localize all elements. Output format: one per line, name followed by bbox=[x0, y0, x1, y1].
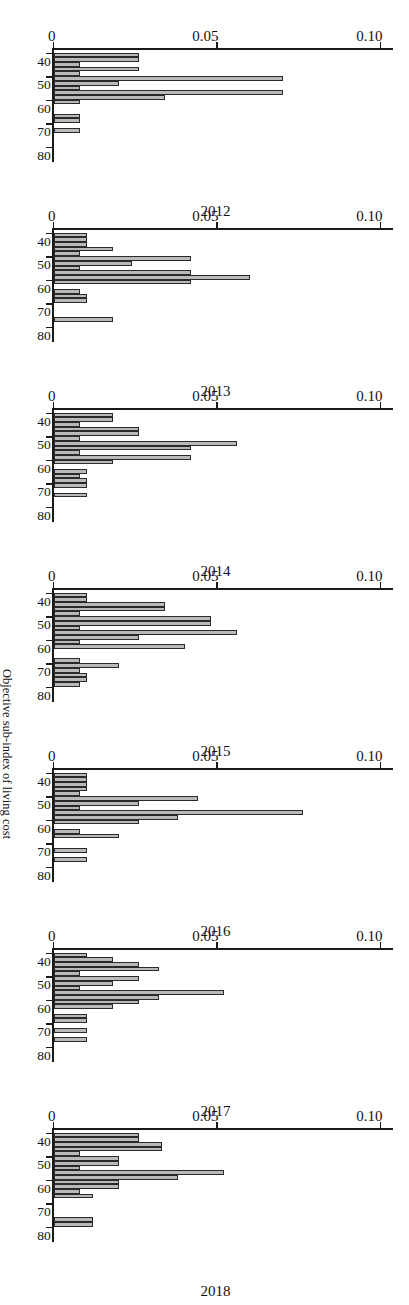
panel-2016: 00.050.1040506070802016 bbox=[0, 768, 409, 948]
density-tick-label: 0.05 bbox=[159, 208, 219, 225]
panel-2015: 00.050.1040506070802015 bbox=[0, 588, 409, 768]
value-tick-label: 80 bbox=[34, 508, 54, 524]
histogram-bar bbox=[54, 483, 87, 488]
value-tick-label: 60 bbox=[34, 641, 54, 657]
value-tick-label: 50 bbox=[34, 437, 54, 453]
value-tick-label: 50 bbox=[34, 977, 54, 993]
density-axis-line bbox=[54, 588, 393, 590]
histogram-bar bbox=[54, 280, 191, 285]
panel-grid: 00.050.104050607080201200.050.1040506070… bbox=[0, 0, 409, 1305]
value-tick-label: 40 bbox=[34, 774, 54, 790]
histogram-bar bbox=[54, 128, 80, 133]
histogram-bar bbox=[54, 644, 185, 649]
histogram-bar bbox=[54, 1222, 93, 1227]
histogram-bar bbox=[54, 100, 80, 105]
value-tick-label: 80 bbox=[34, 328, 54, 344]
density-tick-label: 0.10 bbox=[323, 28, 383, 45]
value-tick-label: 40 bbox=[34, 1134, 54, 1150]
histogram-bar bbox=[54, 1018, 87, 1023]
density-axis-line bbox=[54, 408, 393, 410]
histogram-bar bbox=[54, 1194, 93, 1199]
figure-root: Density Objective sub-index of living co… bbox=[0, 0, 409, 1305]
histogram-bar bbox=[54, 820, 139, 825]
value-tick-label: 80 bbox=[34, 1228, 54, 1244]
histogram-bar bbox=[54, 1037, 87, 1042]
value-tick-label: 70 bbox=[34, 304, 54, 320]
value-tick-label: 50 bbox=[34, 617, 54, 633]
density-tick-label: 0 bbox=[0, 28, 56, 45]
histogram-bar bbox=[54, 317, 113, 322]
density-tick-label: 0.05 bbox=[159, 28, 219, 45]
density-tick-label: 0 bbox=[0, 208, 56, 225]
value-tick-label: 40 bbox=[34, 594, 54, 610]
density-tick-label: 0.10 bbox=[323, 388, 383, 405]
value-tick-label: 70 bbox=[34, 664, 54, 680]
value-tick-label: 80 bbox=[34, 868, 54, 884]
value-tick-label: 80 bbox=[34, 148, 54, 164]
value-tick-label: 70 bbox=[34, 1024, 54, 1040]
density-axis-line bbox=[54, 48, 393, 50]
value-tick-label: 40 bbox=[34, 954, 54, 970]
panel-2017: 00.050.1040506070802017 bbox=[0, 948, 409, 1128]
value-tick-label: 50 bbox=[34, 797, 54, 813]
histogram-bar bbox=[54, 682, 80, 687]
value-tick-label: 50 bbox=[34, 77, 54, 93]
density-tick-label: 0.10 bbox=[323, 748, 383, 765]
density-tick-label: 0 bbox=[0, 928, 56, 945]
panel-2018: 00.050.1040506070802018 bbox=[0, 1128, 409, 1305]
density-axis-line bbox=[54, 228, 393, 230]
value-tick-label: 60 bbox=[34, 1001, 54, 1017]
value-tick-label: 60 bbox=[34, 821, 54, 837]
histogram-bar bbox=[54, 1028, 87, 1033]
value-tick-label: 60 bbox=[34, 461, 54, 477]
value-tick-label: 70 bbox=[34, 124, 54, 140]
histogram-bar bbox=[54, 857, 87, 862]
density-tick-label: 0.05 bbox=[159, 928, 219, 945]
value-tick-label: 50 bbox=[34, 257, 54, 273]
panel-2014: 00.050.1040506070802014 bbox=[0, 408, 409, 588]
density-tick-label: 0.05 bbox=[159, 568, 219, 585]
histogram-bar bbox=[54, 298, 87, 303]
histogram-bar bbox=[54, 460, 113, 465]
rotated-stage: Density Objective sub-index of living co… bbox=[0, 0, 409, 1305]
value-tick-label: 60 bbox=[34, 1181, 54, 1197]
density-tick-label: 0.10 bbox=[323, 568, 383, 585]
panel-2012: 00.050.1040506070802012 bbox=[0, 48, 409, 228]
density-tick-label: 0 bbox=[0, 568, 56, 585]
histogram-bar bbox=[54, 1004, 113, 1009]
value-tick-label: 70 bbox=[34, 484, 54, 500]
value-tick-label: 60 bbox=[34, 101, 54, 117]
value-tick-label: 60 bbox=[34, 281, 54, 297]
density-tick-label: 0.10 bbox=[323, 928, 383, 945]
value-tick-label: 80 bbox=[34, 688, 54, 704]
histogram-bar bbox=[54, 848, 87, 853]
density-tick-label: 0.10 bbox=[323, 1108, 383, 1125]
density-tick-label: 0 bbox=[0, 748, 56, 765]
histogram-bar bbox=[54, 834, 119, 839]
value-tick-label: 70 bbox=[34, 1204, 54, 1220]
value-tick-label: 40 bbox=[34, 414, 54, 430]
density-tick-label: 0.05 bbox=[159, 388, 219, 405]
density-axis-line bbox=[54, 768, 393, 770]
density-axis-line bbox=[54, 1128, 393, 1130]
value-tick-label: 40 bbox=[34, 234, 54, 250]
value-tick-label: 40 bbox=[34, 54, 54, 70]
value-tick-label: 50 bbox=[34, 1157, 54, 1173]
histogram-bar bbox=[54, 118, 80, 123]
histogram-bar bbox=[54, 493, 87, 498]
value-tick-label: 80 bbox=[34, 1048, 54, 1064]
density-tick-label: 0 bbox=[0, 1108, 56, 1125]
panel-year-label-2018: 2018 bbox=[191, 1283, 241, 1300]
panel-2013: 00.050.1040506070802013 bbox=[0, 228, 409, 408]
value-tick-label: 70 bbox=[34, 844, 54, 860]
density-tick-label: 0.05 bbox=[159, 748, 219, 765]
density-tick-label: 0 bbox=[0, 388, 56, 405]
density-tick-label: 0.05 bbox=[159, 1108, 219, 1125]
density-tick-label: 0.10 bbox=[323, 208, 383, 225]
density-axis-line bbox=[54, 948, 393, 950]
